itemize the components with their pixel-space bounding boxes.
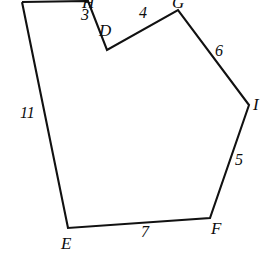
edge-length-ea: 11	[20, 105, 35, 121]
edge-length-gi: 6	[215, 43, 223, 59]
polygon-outline	[22, 1, 249, 228]
edge-length-hd: 3	[81, 7, 89, 23]
polygon-figure: H D G I F E 3 4 6 5 7 11	[0, 0, 261, 266]
polygon-drawing-canvas	[0, 0, 261, 266]
edge-length-if: 5	[235, 152, 243, 168]
vertex-label-g: G	[172, 0, 184, 11]
vertex-label-i: I	[253, 96, 259, 113]
vertex-label-f: F	[211, 220, 221, 237]
edge-length-dg: 4	[139, 5, 147, 21]
vertex-label-d: D	[99, 22, 111, 39]
vertex-label-e: E	[61, 235, 71, 252]
edge-length-fe: 7	[141, 224, 149, 240]
